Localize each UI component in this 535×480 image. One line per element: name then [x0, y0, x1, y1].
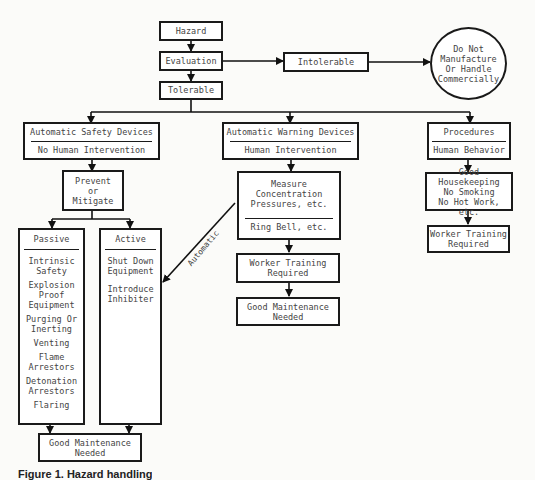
passive-item: Flame Arrestors [21, 352, 82, 372]
housekeeping-line-2: No Smoking [427, 187, 511, 197]
intolerable-label: Intolerable [285, 57, 367, 68]
passive-title: Passive [20, 230, 83, 249]
middle-good-maintenance-box: Good Maintenance Needed [236, 297, 340, 326]
training-line-1: Worker Training [429, 229, 508, 239]
passive-item: Intrinsic Safety [21, 256, 82, 276]
passive-item: Purging Or Inerting [21, 314, 82, 334]
circle-line-3: Or Handle [438, 64, 499, 74]
awd-subtitle: Human Intervention [224, 142, 357, 159]
hazard-label: Hazard [161, 26, 221, 37]
circle-line-2: Manufacture [438, 54, 499, 64]
active-box: Active Shut Down Equipment Introduce Inh… [99, 228, 162, 425]
intolerable-box: Intolerable [283, 52, 369, 72]
prevent-line-3: Mitigate [64, 196, 122, 206]
procedures-box: Procedures Human Behavior [427, 122, 511, 160]
prevent-line-2: or [64, 186, 122, 196]
passive-item: Venting [21, 338, 82, 348]
passive-item: Detonation Arrestors [21, 376, 82, 396]
prevent-line-1: Prevent [64, 176, 122, 186]
housekeeping-line-1: Good Housekeeping [427, 167, 511, 187]
measure-line-3: Pressures, etc. [241, 199, 337, 209]
awd-title: Automatic Warning Devices [224, 124, 357, 141]
passive-box: Passive Intrinsic Safety Explosion Proof… [18, 228, 85, 425]
asd-title: Automatic Safety Devices [25, 124, 158, 141]
prevent-mitigate-box: Prevent or Mitigate [62, 170, 124, 211]
middle-worker-training-box: Worker Training Required [236, 253, 340, 283]
procedures-title: Procedures [429, 124, 509, 141]
automatic-warning-devices-box: Automatic Warning Devices Human Interven… [222, 122, 359, 160]
maintenance-line-2: Needed [40, 448, 140, 458]
active-title: Active [101, 230, 160, 249]
procedures-subtitle: Human Behavior [429, 142, 509, 159]
automatic-safety-devices-box: Automatic Safety Devices No Human Interv… [23, 122, 160, 160]
training-line-2: Required [429, 239, 508, 249]
training-line-1: Worker Training [238, 258, 338, 268]
right-worker-training-box: Worker Training Required [427, 225, 510, 253]
passive-item: Explosion Proof Equipment [21, 280, 82, 310]
circle-line-1: Do Not [438, 44, 499, 54]
training-line-2: Required [238, 268, 338, 278]
asd-subtitle: No Human Intervention [25, 142, 158, 159]
active-item: Introduce Inhibiter [104, 284, 157, 304]
evaluation-label: Evaluation [161, 56, 221, 67]
active-item: Shut Down Equipment [104, 256, 157, 276]
maintenance-line-1: Good Maintenance [40, 438, 140, 448]
tolerable-label: Tolerable [161, 85, 221, 96]
measure-line-1: Measure [241, 179, 337, 189]
measure-line-2: Concentration [241, 189, 337, 199]
housekeeping-line-3: No Hot Work, etc. [427, 197, 511, 217]
do-not-manufacture-circle: Do Not Manufacture Or Handle Commerciall… [430, 27, 507, 100]
left-good-maintenance-box: Good Maintenance Needed [38, 433, 142, 462]
maintenance-line-2: Needed [238, 312, 338, 322]
ring-bell-label: Ring Bell, etc. [239, 219, 339, 236]
evaluation-box: Evaluation [159, 51, 223, 71]
housekeeping-box: Good Housekeeping No Smoking No Hot Work… [425, 172, 513, 211]
tolerable-box: Tolerable [159, 81, 223, 100]
maintenance-line-1: Good Maintenance [238, 302, 338, 312]
passive-item: Flaring [21, 400, 82, 410]
figure-caption: Figure 1. Hazard handling [18, 468, 152, 480]
circle-line-4: Commercially [438, 74, 499, 84]
hazard-box: Hazard [159, 21, 223, 41]
measure-concentration-box: Measure Concentration Pressures, etc. Ri… [237, 171, 341, 240]
